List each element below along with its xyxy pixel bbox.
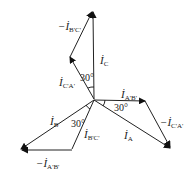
angle-arc-top (88, 87, 94, 88)
phasor-ic (93, 12, 94, 99)
label-neg-ica: −İC'A' (160, 117, 183, 130)
label-neg-iab: −İA'B' (36, 158, 59, 171)
label-ica: İC'A' (59, 77, 75, 90)
phasor-iab (94, 100, 145, 101)
label-iab: İA'B' (121, 89, 137, 102)
phasor-diagram (0, 0, 194, 181)
angle-label-right: 30° (114, 103, 128, 113)
angle-arc-right (103, 100, 105, 106)
phasor-neg-ibc (70, 12, 92, 57)
label-neg-ibc: −İB'C' (58, 21, 81, 34)
label-ibc: İB'C' (84, 129, 100, 142)
label-ic: İC (100, 55, 108, 68)
angle-label-left: 30° (71, 119, 85, 129)
label-ib: İB (50, 116, 58, 129)
label-ia: İA (124, 130, 133, 143)
angle-arc-left (86, 105, 90, 109)
angle-label-top: 30° (80, 73, 94, 83)
